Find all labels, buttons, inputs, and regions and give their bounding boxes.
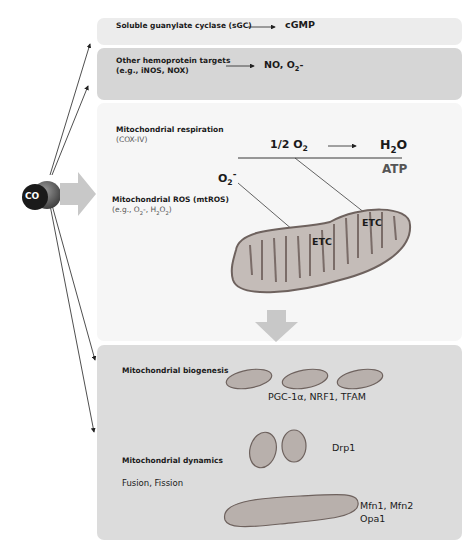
mtros-label: Mitochondrial ROS (mtROS) bbox=[112, 195, 229, 204]
fusion-fission-label: Fusion, Fission bbox=[122, 478, 183, 488]
no-o2-label: NO, O2- bbox=[264, 59, 303, 73]
mtros-examples: (e.g., O2-, H2O2) bbox=[112, 205, 172, 216]
atp-label: ATP bbox=[382, 162, 407, 176]
diagram-graphics bbox=[0, 0, 474, 550]
drp1-label: Drp1 bbox=[332, 442, 355, 453]
co-label: CO bbox=[25, 191, 39, 201]
etc-label-lower: ETC bbox=[312, 236, 332, 247]
dynamics-label: Mitochondrial dynamics bbox=[122, 456, 223, 465]
mitochondria-fission-icons bbox=[246, 429, 306, 471]
hemoprotein-examples: (e.g., iNOS, NOX) bbox=[116, 66, 189, 75]
respiration-label: Mitochondrial respiration bbox=[116, 125, 224, 134]
big-right-arrow-icon bbox=[60, 172, 96, 216]
cgmp-label: cGMP bbox=[285, 19, 315, 30]
mitochondrion-fused-icon bbox=[225, 495, 359, 527]
mitochondria-biogenesis-icons bbox=[225, 366, 384, 392]
etc-label-upper: ETC bbox=[362, 217, 382, 228]
half-o2-label: 1/2 O2 bbox=[270, 138, 308, 153]
mitochondrion-large-icon bbox=[232, 210, 410, 293]
superoxide-label: O2- bbox=[218, 168, 237, 187]
mfn-label: Mfn1, Mfn2 bbox=[360, 500, 413, 511]
cox-iv-label: (COX-IV) bbox=[116, 135, 147, 144]
hemoprotein-label: Other hemoprotein targets bbox=[116, 56, 230, 65]
big-down-arrow-icon bbox=[255, 310, 298, 342]
h2o-label: H2O bbox=[380, 137, 407, 155]
sgc-label: Soluble guanylate cyclase (sGC) bbox=[116, 21, 252, 30]
biogenesis-label: Mitochondrial biogenesis bbox=[122, 366, 228, 375]
biogenesis-factors: PGC-1α, NRF1, TFAM bbox=[268, 391, 366, 402]
opa1-label: Opa1 bbox=[360, 513, 385, 524]
co-to-sgc-arrow bbox=[50, 44, 95, 432]
